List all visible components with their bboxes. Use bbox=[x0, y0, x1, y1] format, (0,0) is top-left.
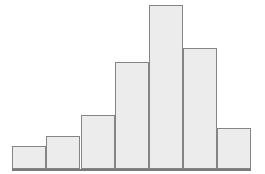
histogram-bar-2 bbox=[46, 136, 80, 169]
histogram-plot-area bbox=[0, 0, 265, 174]
x-axis-baseline bbox=[12, 169, 251, 171]
histogram-bar-5 bbox=[149, 5, 183, 169]
histogram-bar-4 bbox=[115, 62, 149, 169]
histogram-bar-1 bbox=[12, 146, 46, 169]
histogram-bar-3 bbox=[81, 115, 115, 169]
histogram-figure: Unlabeled histogram with seven contiguou… bbox=[0, 0, 265, 174]
histogram-bar-6 bbox=[183, 48, 217, 169]
histogram-bar-7 bbox=[217, 128, 251, 169]
